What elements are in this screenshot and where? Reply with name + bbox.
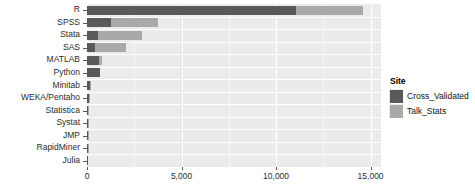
plot-panel <box>87 4 381 167</box>
bar-row <box>87 156 381 165</box>
bar-segment <box>87 6 296 15</box>
x-axis-tick <box>276 167 277 170</box>
legend-color-swatch <box>390 90 403 103</box>
x-axis-tick-label: 15,000 <box>358 171 384 181</box>
bar-segment <box>87 43 95 52</box>
y-axis-tick-label: JMP <box>0 131 80 140</box>
legend-label: Talk_Stats <box>407 106 446 116</box>
bar-row <box>87 6 381 15</box>
x-axis-tick-label: 5,000 <box>171 171 192 181</box>
x-axis-tick-label: 10,000 <box>263 171 289 181</box>
bar-segment <box>98 31 142 40</box>
y-axis-tick-label: MATLAB <box>0 55 80 64</box>
bar-segment <box>296 6 363 15</box>
x-axis-tick <box>182 167 183 170</box>
bar-segment <box>95 43 126 52</box>
y-axis-tick <box>83 10 87 11</box>
x-axis-tick <box>371 167 372 170</box>
x-axis-tick <box>87 167 88 170</box>
bar-row <box>87 43 381 52</box>
y-axis-tick-label: RapidMiner <box>0 143 80 152</box>
bar-row <box>87 106 381 115</box>
y-axis-tick-label: R <box>0 5 80 14</box>
legend-key <box>389 89 403 103</box>
bar-row <box>87 144 381 153</box>
y-axis-tick <box>83 148 87 149</box>
y-axis-tick <box>83 73 87 74</box>
y-axis-tick <box>83 35 87 36</box>
y-axis-tick-label: Minitab <box>0 81 80 90</box>
y-axis-tick-label: SAS <box>0 43 80 52</box>
bar-row <box>87 68 381 77</box>
legend-label: Cross_Validated <box>407 91 469 101</box>
y-axis-tick <box>83 111 87 112</box>
y-axis-tick <box>83 48 87 49</box>
stacked-bar-chart: RSPSSStataSASMATLABPythonMinitabWEKA/Pen… <box>0 0 475 195</box>
x-axis-tick-label: 0 <box>85 171 90 181</box>
bar-segment <box>88 131 89 140</box>
bar-row <box>87 18 381 27</box>
legend-color-swatch <box>390 105 403 118</box>
y-axis-tick <box>83 98 87 99</box>
bar-segment <box>89 94 90 103</box>
bar-row <box>87 119 381 128</box>
y-axis-tick <box>83 136 87 137</box>
y-axis-tick <box>83 60 87 61</box>
bar-segment <box>88 144 89 153</box>
bar-row <box>87 81 381 90</box>
y-axis-tick-label: Julia <box>0 156 80 165</box>
bar-segment <box>87 56 99 65</box>
y-axis-labels: RSPSSStataSASMATLABPythonMinitabWEKA/Pen… <box>0 4 80 167</box>
y-axis-tick-label: Stata <box>0 30 80 39</box>
y-axis-tick-label: Python <box>0 68 80 77</box>
legend: Site Cross_ValidatedTalk_Stats <box>389 76 475 119</box>
bar-row <box>87 31 381 40</box>
legend-key <box>389 104 403 118</box>
legend-entries: Cross_ValidatedTalk_Stats <box>389 89 475 118</box>
bar-row <box>87 94 381 103</box>
legend-title: Site <box>390 76 475 86</box>
y-axis-tick-label: WEKA/Pentaho <box>0 93 80 102</box>
bar-segment <box>99 56 102 65</box>
legend-item[interactable]: Talk_Stats <box>389 104 475 118</box>
y-axis-tick <box>83 23 87 24</box>
bar-segment <box>90 81 91 90</box>
legend-item[interactable]: Cross_Validated <box>389 89 475 103</box>
bar-segment <box>87 68 100 77</box>
y-axis-tick <box>83 86 87 87</box>
bar-segment <box>87 31 98 40</box>
bar-segment <box>111 18 158 27</box>
y-axis-tick-label: Systat <box>0 118 80 127</box>
y-axis-tick <box>83 161 87 162</box>
y-axis-tick <box>83 123 87 124</box>
bar-segment <box>88 119 89 128</box>
bar-row <box>87 56 381 65</box>
bar-segment <box>87 18 111 27</box>
y-axis-tick-label: Statistica <box>0 106 80 115</box>
y-axis-tick-label: SPSS <box>0 18 80 27</box>
bar-row <box>87 131 381 140</box>
bar-segment <box>88 106 89 115</box>
bar-segment <box>87 156 88 165</box>
